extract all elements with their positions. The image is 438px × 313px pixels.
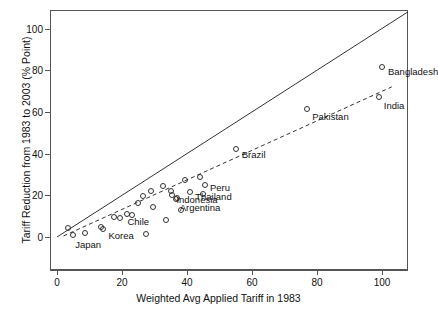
x-tick-mark bbox=[252, 270, 253, 275]
data-point bbox=[65, 225, 71, 231]
x-tick-label: 20 bbox=[116, 277, 127, 288]
y-tick-label: 60 bbox=[32, 106, 43, 117]
data-point bbox=[150, 204, 156, 210]
x-tick-label: 60 bbox=[246, 277, 257, 288]
data-point bbox=[304, 106, 310, 112]
x-axis-label: Weighted Avg Applied Tariff in 1983 bbox=[0, 292, 437, 304]
point-label-peru: Peru bbox=[210, 183, 230, 193]
data-point bbox=[98, 224, 104, 230]
data-point bbox=[82, 230, 88, 236]
point-label-pakistan: Pakistan bbox=[312, 112, 348, 122]
x-tick-label: 100 bbox=[374, 277, 391, 288]
point-label-chile: Chile bbox=[127, 217, 149, 227]
y-tick-mark bbox=[45, 112, 50, 113]
y-tick-label: 40 bbox=[32, 148, 43, 159]
data-point bbox=[202, 182, 208, 188]
y-tick-mark bbox=[45, 195, 50, 196]
point-label-korea: Korea bbox=[109, 231, 134, 241]
y-tick-mark bbox=[45, 154, 50, 155]
x-axis-line bbox=[50, 270, 408, 271]
point-label-thailand: Thailand bbox=[195, 192, 231, 202]
x-tick-label: 0 bbox=[54, 277, 60, 288]
y-tick-label: 20 bbox=[32, 190, 43, 201]
data-point bbox=[160, 183, 166, 189]
point-label-india: India bbox=[384, 101, 405, 111]
x-tick-label: 80 bbox=[311, 277, 322, 288]
y-tick-mark bbox=[45, 237, 50, 238]
x-tick-mark bbox=[57, 270, 58, 275]
x-tick-mark bbox=[122, 270, 123, 275]
y-axis-label: Tariff Reduction from 1983 to 2003 (% Po… bbox=[20, 10, 32, 270]
x-tick-mark bbox=[317, 270, 318, 275]
y-tick-mark bbox=[45, 70, 50, 71]
data-point bbox=[135, 200, 141, 206]
point-label-japan: Japan bbox=[75, 240, 101, 250]
y-tick-label: 80 bbox=[32, 65, 43, 76]
y-tick-label: 0 bbox=[37, 232, 43, 243]
point-label-bangladesh: Bangladesh bbox=[388, 67, 438, 77]
point-label-argentina: Argentina bbox=[180, 203, 221, 213]
x-tick-label: 40 bbox=[181, 277, 192, 288]
y-tick-mark bbox=[45, 29, 50, 30]
x-tick-mark bbox=[187, 270, 188, 275]
x-tick-mark bbox=[382, 270, 383, 275]
data-point bbox=[197, 174, 203, 180]
y-axis-line bbox=[50, 10, 51, 271]
point-label-brazil: Brazil bbox=[242, 150, 266, 160]
